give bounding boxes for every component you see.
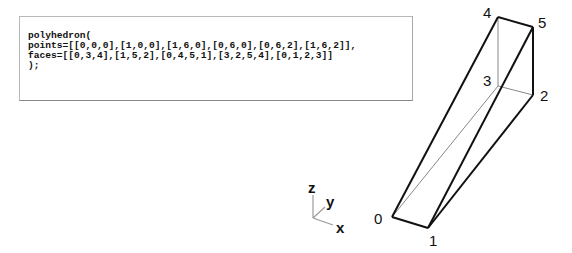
edge-1-5 [428,27,533,228]
edge-3-2 [498,86,533,95]
x-axis-label: x [336,219,345,236]
vertex-label-5: 5 [538,14,546,31]
vertex-labels: 0 1 2 3 4 5 [374,4,548,249]
vertex-label-1: 1 [429,232,437,249]
edge-0-1 [392,217,428,228]
vertex-label-2: 2 [540,87,548,104]
vertex-label-0: 0 [374,210,382,227]
hidden-edges [392,17,533,217]
polyhedron-diagram: z y x 0 1 2 3 4 5 [0,0,572,253]
y-axis-label: y [326,193,335,210]
edge-1-2 [428,95,533,228]
edge-0-4 [392,17,498,217]
z-axis-label: z [308,179,316,196]
vertex-label-3: 3 [483,72,491,89]
edge-4-5 [498,17,533,27]
axis-indicator: z y x [308,179,345,236]
visible-edges [392,17,533,228]
x-axis-line [313,218,333,225]
y-axis-line [313,207,325,218]
vertex-label-4: 4 [483,4,491,21]
